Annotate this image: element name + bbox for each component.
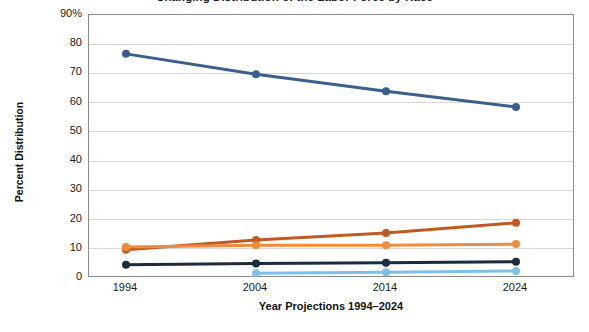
data-point bbox=[382, 87, 390, 95]
x-tick-label: 1994 bbox=[95, 281, 155, 293]
y-tick-label: 80 bbox=[30, 36, 82, 48]
y-axis-title: Percent Distribution bbox=[13, 77, 25, 227]
chart-figure: Changing Distribution of the Labor Force… bbox=[0, 0, 589, 332]
series-line bbox=[126, 54, 516, 107]
series-line bbox=[126, 262, 516, 265]
data-point bbox=[252, 70, 260, 78]
data-point bbox=[252, 259, 260, 267]
y-tick-label: 10 bbox=[30, 241, 82, 253]
data-point bbox=[252, 269, 260, 277]
y-tick-label: 30 bbox=[30, 182, 82, 194]
data-point bbox=[382, 241, 390, 249]
data-point bbox=[512, 240, 520, 248]
data-point bbox=[122, 243, 130, 251]
x-tick-label: 2024 bbox=[485, 281, 545, 293]
y-tick-label: 90% bbox=[30, 7, 82, 19]
x-tick-label: 2004 bbox=[225, 281, 285, 293]
data-point bbox=[122, 261, 130, 269]
chart-title: Changing Distribution of the Labor Force… bbox=[0, 0, 589, 3]
data-point bbox=[252, 241, 260, 249]
y-tick-label: 60 bbox=[30, 95, 82, 107]
plot-area bbox=[88, 14, 574, 277]
y-tick-label: 0 bbox=[30, 270, 82, 282]
series-layer bbox=[89, 15, 575, 278]
data-point bbox=[382, 229, 390, 237]
x-axis-title: Year Projections 1994–2024 bbox=[88, 300, 574, 312]
data-point bbox=[122, 50, 130, 58]
data-point bbox=[512, 267, 520, 275]
data-point bbox=[382, 259, 390, 267]
y-tick-label: 20 bbox=[30, 212, 82, 224]
data-point bbox=[512, 258, 520, 266]
data-point bbox=[382, 268, 390, 276]
y-tick-label: 50 bbox=[30, 124, 82, 136]
y-tick-label: 70 bbox=[30, 65, 82, 77]
data-point bbox=[512, 219, 520, 227]
x-tick-label: 2014 bbox=[355, 281, 415, 293]
y-tick-label: 40 bbox=[30, 153, 82, 165]
data-point bbox=[512, 103, 520, 111]
